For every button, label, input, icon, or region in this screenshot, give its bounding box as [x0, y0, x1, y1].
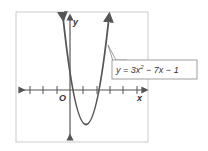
x-axis-label: x [136, 93, 143, 103]
origin-label: O [59, 93, 66, 103]
equation-label: y = 3x2 − 7x − 1 [115, 64, 179, 75]
parabola-graph: y = 3x2 − 7x − 1 y x O [0, 0, 208, 151]
y-axis-label: y [72, 17, 79, 27]
